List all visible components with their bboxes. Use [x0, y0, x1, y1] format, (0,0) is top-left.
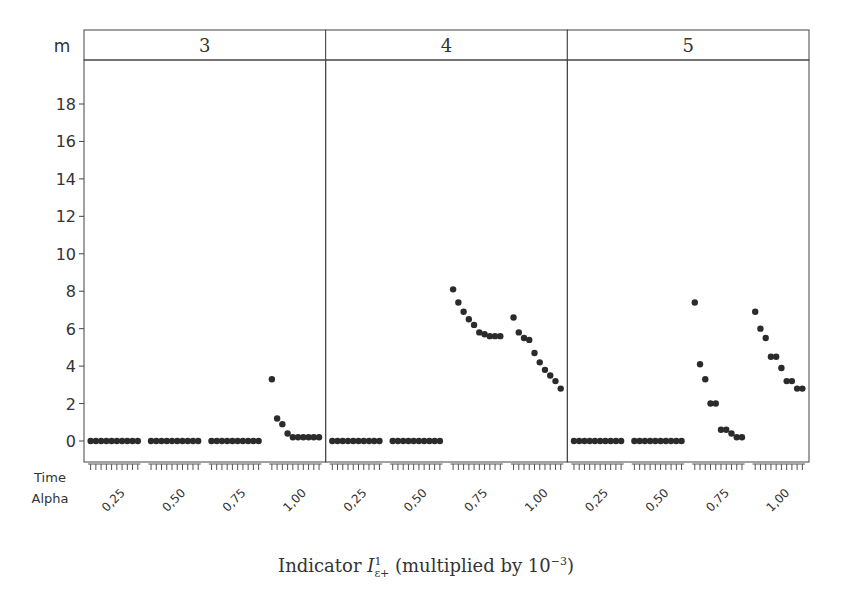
x-tick-label: 0,25	[99, 486, 128, 515]
data-point	[255, 438, 261, 444]
data-point	[269, 376, 275, 382]
panel-m-5: 50,250,500,751,00	[567, 30, 809, 515]
data-point	[678, 438, 684, 444]
data-point	[279, 421, 285, 427]
data-point	[542, 367, 548, 373]
data-point	[547, 372, 553, 378]
data-point	[516, 329, 522, 335]
x-axis-title: Indicator I1ε+ (multiplied by 10−3)	[0, 555, 852, 580]
data-point	[778, 365, 784, 371]
y-tick-label: 12	[56, 207, 76, 226]
data-point	[510, 314, 516, 320]
data-point	[552, 378, 558, 384]
y-tick-label: 16	[56, 132, 76, 151]
data-point	[789, 378, 795, 384]
panel-frame	[84, 60, 326, 462]
data-point	[437, 438, 443, 444]
y-tick-label: 6	[66, 320, 76, 339]
x-tick-label: 0,50	[401, 486, 430, 515]
data-point	[618, 438, 624, 444]
panel-header-label: 4	[441, 35, 452, 56]
data-point	[773, 354, 779, 360]
data-point	[195, 438, 201, 444]
data-point	[316, 434, 322, 440]
data-point	[531, 350, 537, 356]
xlabel-exponent: −3	[551, 555, 567, 568]
data-point	[757, 325, 763, 331]
data-point	[702, 376, 708, 382]
facet-variable-label: m	[54, 36, 71, 56]
data-point	[728, 430, 734, 436]
data-point	[692, 299, 698, 305]
data-point	[471, 322, 477, 328]
y-tick-label: 18	[56, 95, 76, 114]
x-tick-label: 0,50	[159, 486, 188, 515]
data-point	[526, 337, 532, 343]
xlabel-close: )	[567, 555, 574, 576]
data-point	[739, 434, 745, 440]
y-tick-label: 10	[56, 245, 76, 264]
data-point	[274, 415, 280, 421]
x-tick-label: 0,75	[220, 486, 249, 515]
xlabel-prefix: Indicator	[278, 555, 367, 576]
y-tick-label: 4	[66, 357, 76, 376]
x-tick-label: 0,75	[703, 486, 732, 515]
data-point	[723, 427, 729, 433]
data-point	[450, 286, 456, 292]
y-axis: 024681012141618	[56, 95, 84, 451]
faceted-scatter-chart: m 024681012141618 30,250,500,751,0040,25…	[0, 0, 852, 593]
y-tick-label: 0	[66, 432, 76, 451]
panel-m-4: 40,250,500,751,00	[326, 30, 568, 515]
x-tick-label: 0,75	[461, 486, 490, 515]
x-tick-label: 0,25	[341, 486, 370, 515]
data-point	[284, 430, 290, 436]
x-tick-label: 1,00	[280, 486, 309, 515]
data-point	[455, 299, 461, 305]
data-point	[537, 359, 543, 365]
y-tick-label: 2	[66, 395, 76, 414]
data-point	[497, 333, 503, 339]
x-tick-label: 1,00	[764, 486, 793, 515]
panel-frame	[326, 60, 568, 462]
xlabel-sub: ε+	[374, 567, 389, 580]
data-point	[762, 335, 768, 341]
data-point	[466, 316, 472, 322]
panel-header-label: 3	[199, 35, 210, 56]
data-point	[713, 400, 719, 406]
data-point	[697, 361, 703, 367]
y-tick-label: 14	[56, 170, 76, 189]
x-tick-label: 0,50	[643, 486, 672, 515]
panel-header-label: 5	[682, 35, 693, 56]
panel-frame	[567, 60, 809, 462]
x-tick-label: 1,00	[522, 486, 551, 515]
data-point	[135, 438, 141, 444]
xlabel-suffix: (multiplied by 10	[389, 555, 550, 576]
data-point	[376, 438, 382, 444]
x-row-label-alpha: Alpha	[32, 491, 69, 506]
panels: 30,250,500,751,0040,250,500,751,0050,250…	[84, 30, 809, 515]
data-point	[752, 309, 758, 315]
panel-m-3: 30,250,500,751,00	[84, 30, 326, 515]
data-point	[558, 385, 564, 391]
data-point	[799, 385, 805, 391]
data-point	[460, 309, 466, 315]
x-row-label-time: Time	[33, 470, 66, 485]
x-tick-label: 0,25	[582, 486, 611, 515]
y-tick-label: 8	[66, 282, 76, 301]
